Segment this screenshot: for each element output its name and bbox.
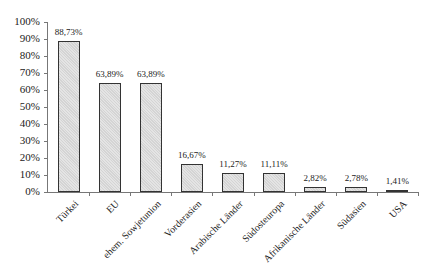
y-tick	[44, 175, 48, 176]
bar	[58, 41, 80, 192]
x-tick	[254, 192, 255, 196]
bar	[304, 187, 326, 192]
value-label: 88,73%	[44, 27, 94, 37]
value-label: 11,11%	[249, 159, 299, 169]
x-axis	[47, 192, 419, 193]
y-tick-label: 70%	[0, 67, 40, 78]
bar	[386, 190, 408, 192]
y-tick	[44, 22, 48, 23]
value-label: 63,89%	[126, 69, 176, 79]
y-tick-label: 80%	[0, 50, 40, 61]
y-tick-label: 100%	[0, 16, 40, 27]
x-tick	[212, 192, 213, 196]
y-tick-label: 10%	[0, 169, 40, 180]
y-tick	[44, 90, 48, 91]
bar	[222, 173, 244, 192]
y-tick	[44, 124, 48, 125]
x-tick-label: Türkei	[54, 198, 81, 225]
y-tick-label: 20%	[0, 152, 40, 163]
value-label: 1,41%	[372, 176, 422, 186]
x-tick-label: Südasien	[335, 198, 368, 231]
bar	[99, 83, 121, 192]
y-tick-label: 90%	[0, 33, 40, 44]
y-tick	[44, 73, 48, 74]
x-tick-label: Vorderasien	[162, 198, 203, 239]
y-tick-label: 30%	[0, 135, 40, 146]
y-tick	[44, 39, 48, 40]
y-tick-label: 40%	[0, 118, 40, 129]
y-tick	[44, 192, 48, 193]
x-tick	[295, 192, 296, 196]
y-tick-label: 0%	[0, 186, 40, 197]
bar	[140, 83, 162, 192]
y-tick	[44, 158, 48, 159]
y-tick	[44, 107, 48, 108]
bar	[181, 164, 203, 192]
y-tick-label: 50%	[0, 101, 40, 112]
x-tick-label: EU	[104, 198, 121, 215]
y-tick-label: 60%	[0, 84, 40, 95]
x-tick-label: USA	[387, 198, 409, 220]
x-tick	[377, 192, 378, 196]
y-tick	[44, 141, 48, 142]
bar	[263, 173, 285, 192]
bar	[345, 187, 367, 192]
x-tick	[130, 192, 131, 196]
x-tick	[418, 192, 419, 196]
x-tick	[336, 192, 337, 196]
bar-chart: 0%10%20%30%40%50%60%70%80%90%100% 88,73%…	[0, 0, 439, 279]
x-tick	[171, 192, 172, 196]
x-tick	[89, 192, 90, 196]
y-tick	[44, 56, 48, 57]
